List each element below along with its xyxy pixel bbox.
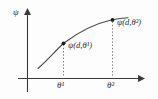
point-2-value-label: ψ(d,θ²): [117, 18, 141, 27]
figure-container: ψ ψ(d,θ¹) ψ(d,θ²) θ¹ θ²: [0, 0, 158, 99]
y-axis-arrow-icon: [24, 8, 31, 15]
marker-point-2: [111, 18, 115, 22]
x-tick-label-theta1: θ¹: [57, 81, 64, 90]
point-1-value-label: ψ(d,θ¹): [68, 41, 92, 50]
x-axis-arrow-icon: [138, 75, 145, 82]
y-axis-label: ψ: [13, 8, 19, 17]
x-tick-label-theta2: θ²: [107, 81, 114, 90]
marker-point-1: [62, 41, 66, 45]
